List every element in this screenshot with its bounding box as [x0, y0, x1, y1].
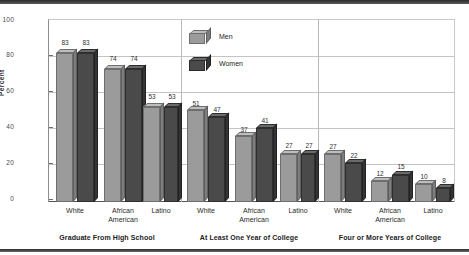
bar-women-g1-latino [301, 154, 315, 202]
x-label-g1-latino: Latino [277, 207, 319, 216]
value-label-men-g1-latino: 27 [278, 142, 300, 149]
value-label-women-g0-latino: 53 [161, 93, 183, 100]
bottom-divider-rule [0, 249, 469, 252]
bar-men-g0-african-american [104, 69, 121, 202]
bar-women-g1-white [208, 117, 225, 202]
bar-women-g0-african-american [125, 69, 142, 202]
bar-men-g2-white [324, 154, 341, 202]
x-label-g0-african-line1: African [112, 207, 134, 214]
chart-figure: 100 80 60 40 20 0 Percent 83 83 74 74 [0, 0, 469, 255]
group-title-one-year-college: At Least One Year of College [178, 234, 320, 241]
value-label-women-g1-latino: 27 [298, 142, 320, 149]
value-label-men-g2-white: 27 [322, 143, 344, 150]
bar-women-g2-african-american [392, 175, 409, 202]
value-label-men-g0-african-american: 74 [102, 55, 124, 62]
value-label-women-g0-white: 83 [75, 39, 97, 46]
x-label-g1-african-line1: African [243, 207, 265, 214]
bar-women-g0-latino [164, 107, 178, 202]
x-label-g1-african-american: African American [231, 207, 277, 224]
value-label-women-g2-latino: 8 [433, 177, 455, 184]
bar-men-g2-latino [415, 184, 432, 202]
value-label-men-g1-white: 51 [185, 100, 207, 107]
bar-men-g1-latino [280, 154, 297, 202]
legend-cube-women-icon [189, 57, 211, 71]
x-label-g2-white: White [322, 207, 364, 216]
x-label-g1-white: White [185, 207, 227, 216]
y-axis-label: Percent [0, 69, 5, 96]
y-tick-label-80: 80 [0, 51, 14, 58]
y-tick-label-20: 20 [0, 159, 14, 166]
bar-men-g1-white [187, 110, 204, 202]
group-title-graduate-high-school: Graduate From High School [32, 234, 182, 241]
x-label-g2-african-american: African American [367, 207, 413, 224]
bar-women-g0-white [77, 53, 94, 202]
x-label-g0-african-line2: American [108, 216, 138, 223]
value-label-women-g1-african-american: 41 [254, 117, 276, 124]
legend-cube-men-icon [189, 30, 211, 44]
x-label-g0-white: White [54, 207, 96, 216]
value-label-men-g2-african-american: 12 [369, 170, 391, 177]
group-title-four-or-more-years: Four or More Years of College [316, 234, 464, 241]
value-label-women-g0-african-american: 74 [123, 55, 145, 62]
value-label-women-g2-african-american: 15 [390, 163, 412, 170]
value-label-men-g1-african-american: 37 [233, 126, 255, 133]
x-label-g2-latino: Latino [412, 207, 454, 216]
y-tick-label-100: 100 [0, 16, 14, 23]
bar-women-g2-white [345, 163, 362, 202]
y-tick-label-40: 40 [0, 123, 14, 130]
bar-men-g1-african-american [235, 136, 252, 202]
bar-women-g2-latino [436, 188, 450, 202]
top-divider-rule [0, 0, 469, 4]
x-label-g0-latino: Latino [140, 207, 182, 216]
bar-men-g2-african-american [371, 181, 388, 202]
value-label-women-g2-white: 22 [343, 152, 365, 159]
bar-men-g0-white [56, 53, 73, 202]
y-tick-label-0: 0 [0, 195, 14, 202]
value-label-men-g0-latino: 53 [141, 93, 163, 100]
value-label-men-g0-white: 83 [54, 39, 76, 46]
x-label-g1-african-line2: American [239, 216, 269, 223]
value-label-women-g1-white: 47 [206, 106, 228, 113]
value-label-men-g2-latino: 10 [413, 173, 435, 180]
bar-men-g0-latino [143, 107, 160, 202]
legend-label-women: Women [219, 60, 243, 67]
legend-label-men: Men [219, 33, 233, 40]
x-label-g2-african-line2: American [375, 216, 405, 223]
x-label-g2-african-line1: African [379, 207, 401, 214]
bar-women-g1-african-american [256, 128, 273, 202]
